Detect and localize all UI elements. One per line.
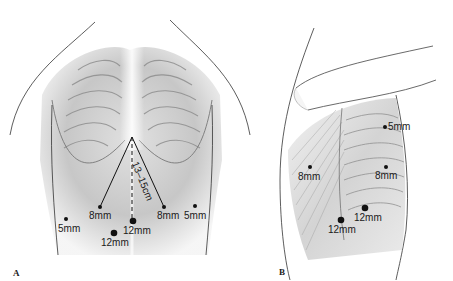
port-label-midline: 12mm <box>123 226 151 236</box>
panel-letter-b: B <box>279 267 285 277</box>
port-dot <box>338 217 345 224</box>
port-label-right-upper: 8mm <box>157 211 179 221</box>
port-dot <box>308 165 312 169</box>
port-dot <box>130 218 137 225</box>
port-label-left-upper: 8mm <box>89 211 111 221</box>
port-label-anterior: 8mm <box>375 171 397 181</box>
port-label-upper: 5mm <box>388 122 410 132</box>
port-label-right-lateral: 5mm <box>184 211 206 221</box>
anterior-torso-illustration <box>0 0 262 281</box>
port-dot <box>362 205 369 212</box>
panel-a-anterior-view: 13–15cm 8mm 8mm 5mm 5mm 12mm 12mm A <box>0 0 262 281</box>
lateral-torso-illustration <box>268 0 453 281</box>
port-label-lower-posterior: 12mm <box>328 225 356 235</box>
panel-b-lateral-view: 5mm 8mm 8mm 12mm 12mm B <box>268 0 453 281</box>
port-label-left-lateral: 5mm <box>58 224 80 234</box>
port-label-paramedian: 12mm <box>101 238 129 248</box>
port-dot <box>111 230 118 237</box>
port-dot <box>98 205 102 209</box>
port-label-posterior: 8mm <box>298 172 320 182</box>
port-dot <box>64 217 68 221</box>
port-dot <box>193 204 197 208</box>
port-dot <box>383 125 387 129</box>
panel-letter-a: A <box>13 268 20 278</box>
port-label-lower-anterior: 12mm <box>354 213 382 223</box>
port-dot <box>384 165 388 169</box>
port-dot <box>162 205 166 209</box>
